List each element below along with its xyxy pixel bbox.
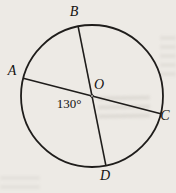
point-label-b: B	[70, 4, 79, 19]
circle-geometry-diagram: A B O C D 130°	[0, 0, 176, 193]
point-label-a: A	[7, 63, 17, 78]
angle-label: 130°	[57, 96, 82, 111]
point-label-c: C	[160, 108, 170, 123]
scanned-figure-page: A B O C D 130°	[0, 0, 176, 193]
center-point	[91, 95, 94, 98]
center-label-o: O	[94, 77, 104, 92]
point-label-d: D	[99, 168, 110, 183]
